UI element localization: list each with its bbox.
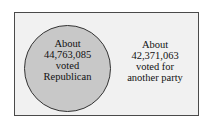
label-line: 42,371,063	[120, 50, 190, 61]
label-line: 44,763,085	[24, 49, 111, 60]
republican-voters-label: About 44,763,085 voted Republican	[24, 38, 111, 82]
label-line: About	[24, 38, 111, 49]
label-line: About	[120, 39, 190, 50]
other-party-voters-label: About 42,371,063 voted for another party	[120, 39, 190, 83]
label-line: voted for	[120, 61, 190, 72]
label-line: another party	[120, 72, 190, 83]
label-line: Republican	[24, 71, 111, 82]
label-line: voted	[24, 60, 111, 71]
